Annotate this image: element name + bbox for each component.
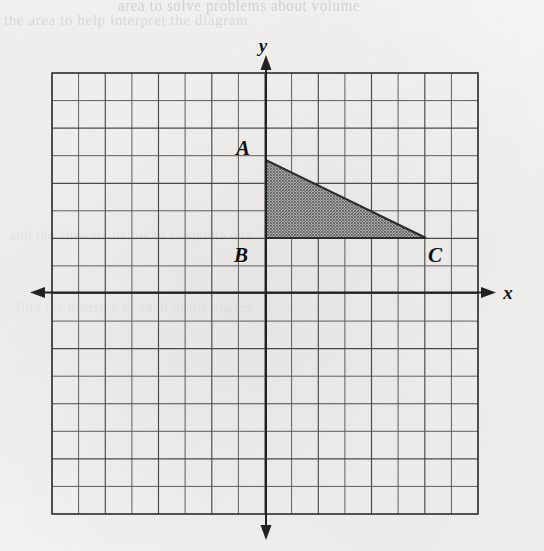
vertex-label-b: B [233, 243, 248, 267]
vertex-label-a: A [234, 136, 250, 160]
coordinate-grid-figure: y x A B C [0, 0, 544, 551]
figure-page: area to solve problems about volume the … [0, 0, 544, 551]
x-axis-arrow-right [481, 287, 496, 298]
x-axis-label: x [502, 282, 513, 303]
y-axis-arrow-up [261, 55, 272, 70]
triangle-abc [266, 160, 426, 238]
vertex-label-c: C [428, 243, 443, 267]
x-axis [30, 287, 496, 298]
y-axis-label: y [257, 35, 268, 56]
y-axis-arrow-down [261, 525, 272, 540]
x-axis-arrow-left [30, 287, 45, 298]
